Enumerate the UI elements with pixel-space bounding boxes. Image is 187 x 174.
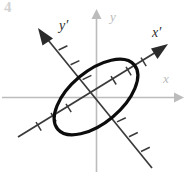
y-prime-tick	[59, 46, 68, 50]
x-prime-axis-arrowhead	[151, 44, 168, 59]
corner-artifact-group: 4	[4, 0, 12, 15]
y-axis-arrowhead	[92, 9, 102, 19]
y-prime-tick	[71, 61, 80, 65]
y-prime-axis-label: y′	[57, 18, 69, 33]
x-prime-axis-line	[18, 49, 161, 137]
rotated-axes-ellipse-figure: x y x′ y′ 4	[0, 0, 187, 174]
x-prime-axis-label: x′	[151, 25, 162, 40]
y-prime-tick	[129, 133, 138, 137]
x-axis-arrowhead	[174, 93, 184, 103]
y-axis-label: y	[108, 9, 116, 24]
axis-labels-group: x y x′ y′	[57, 9, 169, 86]
x-axis-label: x	[162, 71, 169, 86]
figure-container: x y x′ y′ 4	[0, 0, 187, 174]
y-prime-tick	[117, 118, 126, 122]
y-prime-tick	[141, 147, 150, 151]
y-prime-tick	[83, 75, 92, 79]
corner-artifact-text: 4	[4, 0, 12, 15]
